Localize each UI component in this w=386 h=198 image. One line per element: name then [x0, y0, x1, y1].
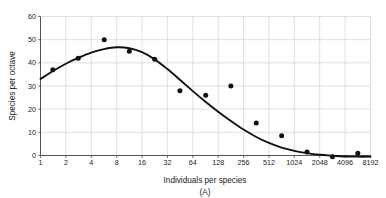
data-point-marker	[102, 37, 107, 42]
y-tick-label: 20	[28, 105, 36, 114]
y-tick-label: 0	[32, 151, 36, 160]
y-tick-label: 10	[28, 128, 36, 137]
data-point-marker	[279, 133, 284, 138]
data-point-marker	[127, 49, 132, 54]
y-tick-label: 30	[28, 82, 36, 91]
data-point-marker	[305, 150, 310, 155]
x-tick-label: 1024	[286, 158, 302, 167]
x-tick-label: 16	[138, 158, 146, 167]
data-point-marker	[254, 121, 259, 126]
x-axis-title: Individuals per species	[164, 176, 247, 185]
chart-figure: 12481632641282565121024204840968192 0102…	[0, 0, 386, 198]
data-point-marker	[76, 56, 81, 61]
x-tick-label: 32	[163, 158, 171, 167]
data-point-marker	[152, 57, 157, 62]
x-tick-label: 2048	[312, 158, 328, 167]
y-tick-label: 40	[28, 58, 36, 67]
x-tick-label: 4096	[337, 158, 353, 167]
data-point-marker	[177, 88, 182, 93]
x-tick-label: 1	[39, 158, 43, 167]
species-per-octave-chart: 12481632641282565121024204840968192 0102…	[0, 0, 386, 198]
x-tick-label: 2	[64, 158, 68, 167]
x-tick-label: 64	[189, 158, 197, 167]
x-tick-label: 256	[238, 158, 250, 167]
data-point-marker	[330, 154, 335, 159]
x-tick-label: 128	[212, 158, 224, 167]
data-point-marker	[203, 93, 208, 98]
data-point-marker	[228, 84, 233, 89]
data-point-marker	[355, 151, 360, 156]
y-axis-title: Species per octave	[8, 51, 17, 121]
x-tick-label: 8	[115, 158, 119, 167]
y-tick-label: 60	[28, 12, 36, 21]
figure-caption: (A)	[200, 188, 211, 197]
data-point-marker	[50, 67, 55, 72]
x-tick-label: 4	[89, 158, 93, 167]
x-tick-label: 8192	[363, 158, 379, 167]
x-tick-label: 512	[263, 158, 275, 167]
y-tick-label: 50	[28, 35, 36, 44]
